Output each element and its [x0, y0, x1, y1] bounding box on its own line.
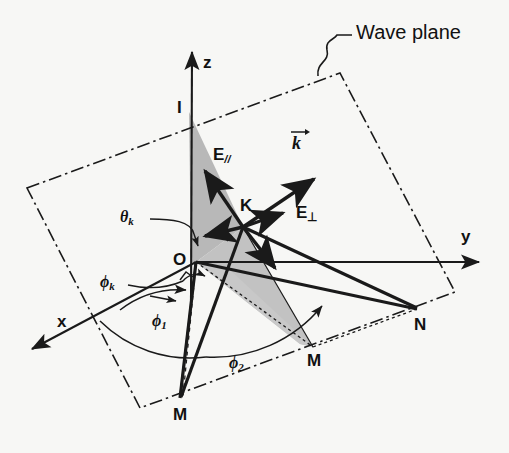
point-label-N: N — [414, 316, 426, 333]
angle-label-theta-k-sub: k — [128, 215, 134, 227]
phi-1-arc — [120, 290, 186, 310]
angle-label-phi-2-base: ϕ — [229, 354, 238, 371]
phi-fan-tick — [150, 296, 176, 301]
vector-label-E-parallel-base: E — [213, 145, 224, 164]
point-label-J: M — [307, 352, 321, 369]
angle-label-phi-1-sub: 1 — [161, 319, 167, 331]
point-label-K: K — [240, 197, 252, 214]
diagram-canvas — [0, 0, 509, 453]
wave-plane-leader — [318, 35, 352, 76]
angle-label-theta-k: θk — [120, 209, 134, 227]
vector-label-E-perp-base: E — [296, 203, 307, 222]
angle-label-phi-2-sub: 2 — [238, 361, 244, 373]
wave-plane-diagram: Wave plane z y x O I K M J M N E// k E⊥ … — [0, 0, 509, 453]
point-label-I: I — [177, 99, 182, 116]
axis-label-x: x — [57, 313, 66, 330]
theta-k-leader — [150, 219, 194, 234]
axis-z — [191, 52, 192, 300]
vector-label-E-perp-sub: ⊥ — [307, 210, 317, 224]
point-label-O: O — [173, 251, 186, 268]
angle-label-phi-k: ϕk — [100, 274, 115, 292]
vector-label-E-parallel-sub: // — [224, 153, 230, 165]
angle-label-phi-1: ϕ1 — [152, 313, 167, 331]
vector-label-k-base: k — [292, 133, 301, 153]
angle-label-phi-k-base: ϕ — [100, 273, 109, 290]
line-J-N-dotted — [313, 309, 417, 347]
angle-label-phi-1-base: ϕ — [152, 312, 161, 329]
axis-label-z: z — [203, 54, 212, 71]
vector-label-E-perpendicular: E⊥ — [296, 204, 317, 223]
vector-label-E-parallel: E// — [213, 146, 230, 165]
wave-plane-title: Wave plane — [356, 22, 461, 42]
vector-arrow-overline-icon — [290, 127, 312, 136]
angle-label-phi-2: ϕ2 — [229, 355, 244, 373]
vector-label-k: k — [292, 134, 301, 152]
angle-label-phi-k-sub: k — [109, 280, 115, 292]
axis-label-y: y — [461, 228, 470, 245]
point-label-M: M — [173, 406, 187, 423]
